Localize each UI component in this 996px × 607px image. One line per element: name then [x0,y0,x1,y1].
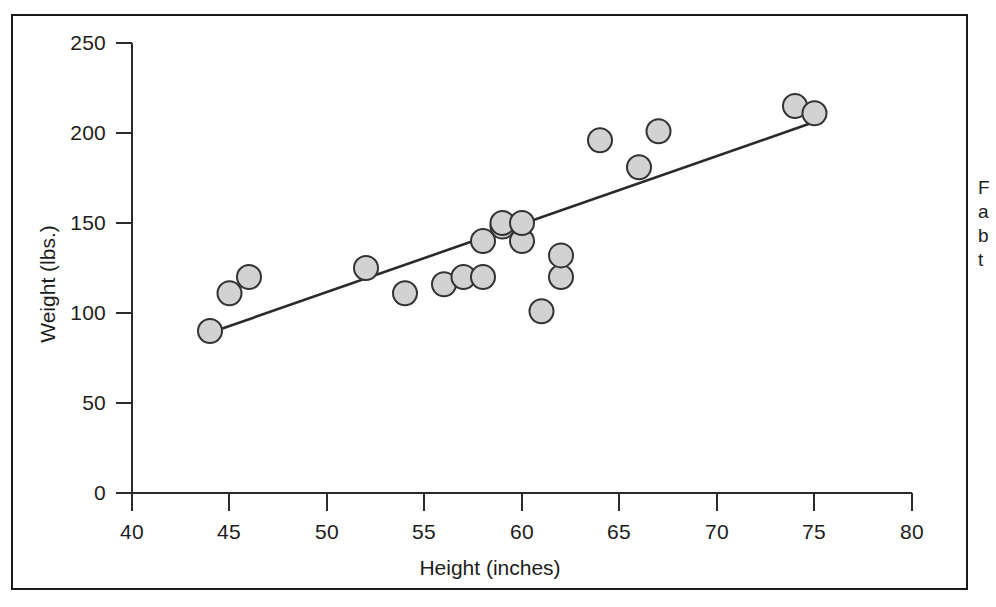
x-tick-label-40: 40 [120,520,144,544]
y-tick-label-250: 250 [48,31,106,55]
x-tick-label-80: 80 [900,520,924,544]
x-tick-label-45: 45 [217,520,241,544]
side-caption-line-3: b [978,224,996,248]
x-tick-label-60: 60 [510,520,534,544]
x-tick-label-70: 70 [705,520,729,544]
side-caption-line-2: a [978,200,996,224]
y-tick-label-200: 200 [48,121,106,145]
y-tick-label-0: 0 [48,481,106,505]
figure-frame-border [11,14,968,590]
x-tick-label-50: 50 [315,520,339,544]
x-axis-title: Height (inches) [90,556,890,580]
side-caption-line-4: t [978,248,996,272]
x-tick-label-65: 65 [607,520,631,544]
x-tick-label-55: 55 [412,520,436,544]
side-caption-line-1: F [978,176,996,200]
x-tick-label-75: 75 [802,520,826,544]
side-caption-cropped: F a b t [978,176,996,272]
figure-container: 250 200 150 100 50 0 40 45 50 55 60 65 7… [0,0,996,607]
y-tick-label-50: 50 [48,391,106,415]
y-axis-title: Weight (lbs.) [36,174,60,394]
